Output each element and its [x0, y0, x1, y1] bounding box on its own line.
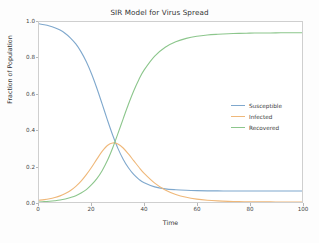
- series-line-infected: [39, 143, 302, 202]
- legend-item-label: Susceptible: [249, 103, 282, 109]
- x-axis-tick-mark: [38, 203, 39, 206]
- legend-item-label: Infected: [249, 114, 272, 120]
- x-axis-tick-mark: [91, 203, 92, 206]
- legend-swatch-icon: [231, 127, 245, 128]
- x-axis-tick-mark: [144, 203, 145, 206]
- x-axis-tick-label: 100: [286, 206, 319, 212]
- legend-swatch-icon: [231, 116, 245, 117]
- x-axis-tick-label: 80: [233, 206, 267, 212]
- sir-model-chart-figure: SIR Model for Virus Spread 0.00.20.40.60…: [0, 0, 319, 243]
- legend-item-infected[interactable]: Infected: [231, 111, 305, 122]
- x-axis-tick-label: 0: [21, 206, 55, 212]
- x-axis-tick-mark: [197, 203, 198, 206]
- x-axis-label: Time: [38, 219, 303, 226]
- legend-item-label: Recovered: [249, 125, 279, 131]
- x-axis-tick-label: 20: [74, 206, 108, 212]
- x-axis-tick-label: 60: [180, 206, 214, 212]
- y-axis-label: Fraction of Population: [6, 20, 13, 120]
- legend-item-recovered[interactable]: Recovered: [231, 122, 305, 133]
- x-axis-tick-mark: [250, 203, 251, 206]
- legend-swatch-icon: [231, 105, 245, 106]
- legend-item-susceptible[interactable]: Susceptible: [231, 100, 305, 111]
- legend: SusceptibleInfectedRecovered: [231, 100, 305, 133]
- x-axis-tick-mark: [303, 203, 304, 206]
- x-axis-tick-label: 40: [127, 206, 161, 212]
